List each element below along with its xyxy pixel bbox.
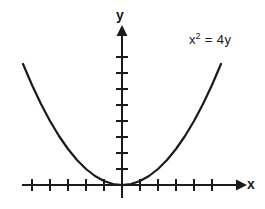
y-axis-group [116, 25, 128, 198]
equation-remainder: = 4y [201, 32, 232, 47]
equation-annotation: x2 = 4y [189, 33, 232, 46]
x-axis-arrowhead [236, 180, 247, 191]
y-axis-label: y [116, 8, 124, 22]
x-axis-group [22, 179, 247, 191]
x-axis-label: x [247, 177, 255, 191]
y-axis-arrowhead [117, 25, 128, 36]
parabola-figure: y x x2 = 4y [0, 0, 265, 209]
